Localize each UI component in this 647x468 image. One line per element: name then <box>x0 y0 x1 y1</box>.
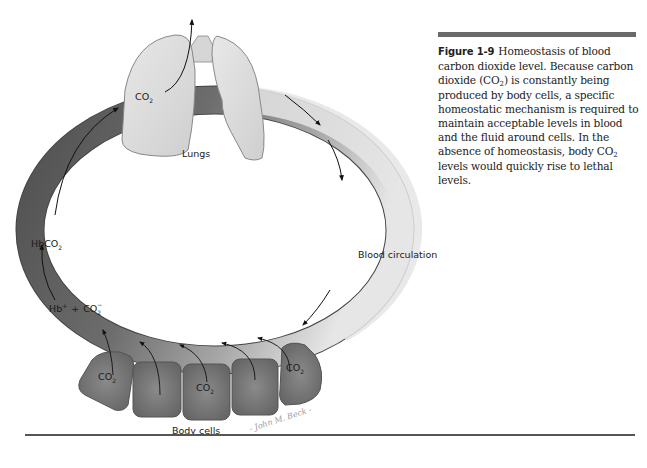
caption-top-rule <box>438 32 636 37</box>
figure-number: Figure 1-9 <box>438 46 494 57</box>
lungs-label: Lungs <box>182 148 210 159</box>
figure-caption: Figure 1-9Homeostasis of blood carbon di… <box>438 44 643 187</box>
blood-circulation-ring <box>30 100 409 360</box>
page-bottom-rule <box>25 434 635 436</box>
left-lung <box>122 35 195 156</box>
lungs-illustration <box>122 20 264 160</box>
blood-circulation-label: Blood circulation <box>358 249 437 260</box>
hb-plus-co2-label: Hb++CO2− <box>49 301 102 316</box>
